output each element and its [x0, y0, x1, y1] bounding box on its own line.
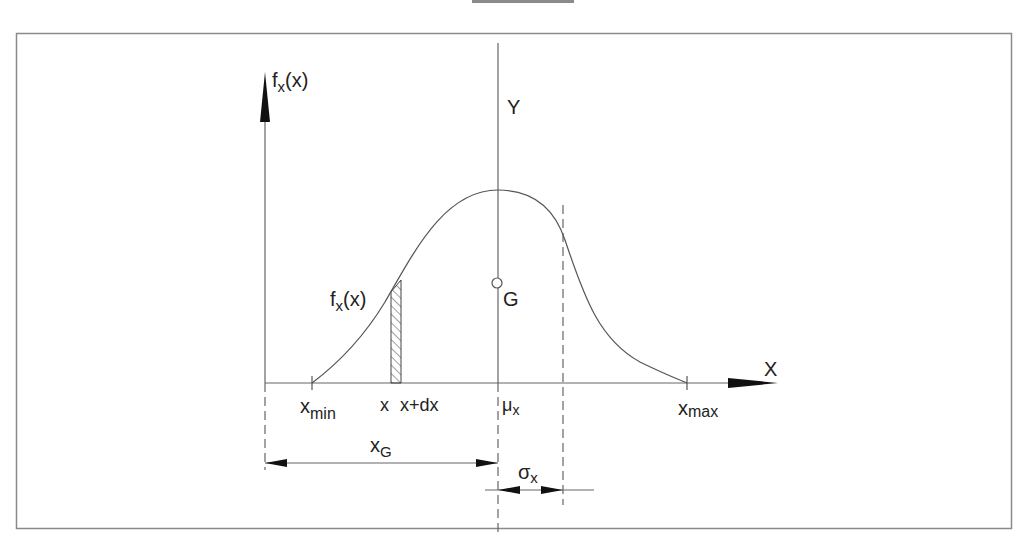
sigma-left-arrow-icon [498, 486, 520, 494]
y-axis-label: fx(x) [272, 69, 308, 95]
sigma-label: σx [518, 461, 538, 486]
x-max-label: xmax [678, 397, 718, 420]
hatched-strip [391, 280, 401, 383]
xg-right-arrow-icon [476, 459, 498, 467]
sigma-dimension [485, 486, 594, 494]
mu-label: μx [502, 395, 519, 418]
y-axis-arrow-icon [260, 72, 270, 122]
vertical-axis-label: Y [507, 96, 520, 118]
horizontal-axis-label: X [764, 358, 777, 380]
xg-left-arrow-icon [265, 459, 287, 467]
diagram-canvas: fx(x) Y fx(x) G X xmin x x+dx μx xmax xG… [0, 0, 1030, 550]
x-label: x [380, 395, 389, 415]
centroid-label: G [503, 288, 519, 310]
curve-label: fx(x) [330, 288, 366, 314]
sigma-right-arrow-icon [541, 486, 563, 494]
y-axis [260, 72, 270, 383]
x-min-label: xmin [300, 395, 336, 422]
x-dx-label: x+dx [400, 395, 439, 415]
centroid-marker-icon [492, 278, 502, 288]
x-axis [265, 378, 778, 388]
xg-dimension [265, 459, 498, 467]
xg-label: xG [370, 434, 392, 460]
